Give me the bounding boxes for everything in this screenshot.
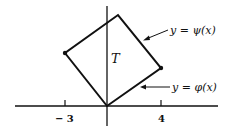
region-label: T — [111, 51, 121, 66]
lower-curve-label: y = φ(x) — [171, 81, 217, 94]
psi-pointer-arrow — [143, 30, 168, 41]
vertex-right — [159, 66, 163, 70]
tick-label-minus-3: − 3 — [55, 113, 74, 124]
vertex-left — [63, 51, 67, 55]
phi-pointer-arrow — [140, 85, 170, 90]
region-diagram: T y = ψ(x) y = φ(x) − 3 4 — [0, 0, 231, 134]
upper-curve-label: y = ψ(x) — [169, 24, 216, 37]
tick-label-4: 4 — [158, 113, 165, 124]
